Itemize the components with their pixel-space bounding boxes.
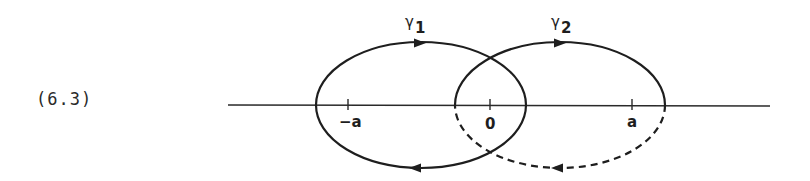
gamma1-arrow-right-icon — [414, 39, 426, 48]
gamma2-symbol: γ — [551, 13, 560, 31]
gamma1-label: γ1 — [405, 13, 425, 37]
gamma1-arrow-left-icon — [409, 164, 421, 173]
gamma2-upper-arc — [455, 42, 665, 105]
gamma1-symbol: γ — [405, 13, 414, 31]
real-axis — [228, 105, 770, 106]
gamma2-subscript: 2 — [561, 19, 571, 37]
gamma1-subscript: 1 — [415, 19, 425, 37]
tick-label-zero: 0 — [485, 115, 495, 133]
tick-label-minus-a: −a — [339, 113, 362, 131]
gamma2-label: γ2 — [551, 13, 571, 37]
gamma1-upper-arc — [316, 42, 526, 105]
gamma2-arrow-right-icon — [554, 39, 566, 48]
contour-diagram: −a 0 a γ1 γ2 — [0, 0, 810, 181]
gamma2-arrow-left-icon — [551, 164, 563, 173]
tick-label-a: a — [627, 113, 637, 131]
